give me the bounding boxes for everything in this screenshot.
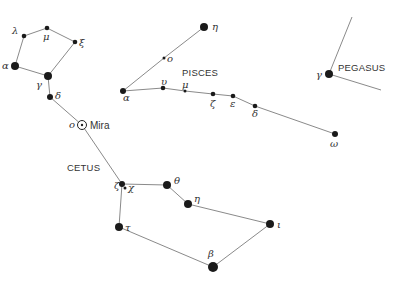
star-label-cet-delta: δ xyxy=(55,90,61,101)
star-label-psc-upsilon: υ xyxy=(161,76,167,87)
star-cet-iota xyxy=(266,220,274,228)
constellation-line xyxy=(188,204,270,224)
star-peg-gamma xyxy=(325,70,333,78)
star-cet-gamma xyxy=(44,72,52,80)
star-label-cet-alpha: α xyxy=(2,60,9,71)
pegasus-lines xyxy=(329,17,381,90)
constellation-line xyxy=(213,224,270,267)
star-chart: λμξαγδοζχθητβιηοαυμζεδωγ PISCES PEGASUS … xyxy=(0,0,402,287)
constellation-line xyxy=(255,106,335,134)
constellation-line xyxy=(119,184,122,227)
star-label-cet-omicron: ο xyxy=(69,119,75,130)
star-label-psc-omicron: ο xyxy=(167,53,173,64)
constellation-line xyxy=(123,88,163,91)
star-psc-eta xyxy=(200,23,208,31)
constellation-line xyxy=(233,96,255,106)
star-label-psc-mu: μ xyxy=(182,79,189,90)
star-label-cet-beta: β xyxy=(207,248,214,259)
star-cet-mu xyxy=(45,26,50,31)
mira-label: Mira xyxy=(90,120,110,131)
star-label-cet-gamma: γ xyxy=(36,79,42,90)
constellation-line xyxy=(50,97,82,125)
constellation-label-cetus: CETUS xyxy=(67,162,100,173)
star-cet-zeta xyxy=(119,181,125,187)
star-cet-delta xyxy=(47,94,53,100)
star-cet-chi xyxy=(124,187,127,190)
star-label-cet-lambda: λ xyxy=(11,25,18,36)
star-psc-omega xyxy=(332,131,338,137)
star-cet-xi xyxy=(73,40,78,45)
constellation-label-pegasus: PEGASUS xyxy=(338,62,385,73)
star-label-peg-gamma: γ xyxy=(316,69,322,80)
constellation-lines xyxy=(15,27,335,267)
star-labels: λμξαγδοζχθητβιηοαυμζεδωγ xyxy=(2,21,338,259)
pegasus-line-east xyxy=(329,74,381,90)
star-cet-alpha xyxy=(11,62,19,70)
constellation-line xyxy=(48,42,75,76)
star-cet-theta xyxy=(163,181,171,189)
star-label-psc-delta: δ xyxy=(252,108,258,119)
constellation-line xyxy=(119,227,213,267)
constellation-line xyxy=(185,91,213,94)
star-label-psc-eta: η xyxy=(212,21,218,32)
star-cet-tau xyxy=(115,223,123,231)
constellation-line xyxy=(15,66,48,76)
star-label-cet-mu: μ xyxy=(43,31,50,42)
constellation-line xyxy=(123,58,164,91)
constellation-line xyxy=(47,28,75,42)
star-label-psc-epsilon: ε xyxy=(230,98,235,109)
constellation-line xyxy=(82,125,122,184)
star-label-cet-zeta: ζ xyxy=(114,180,120,191)
star-psc-zeta xyxy=(211,92,216,97)
star-label-cet-theta: θ xyxy=(174,175,180,186)
star-cet-beta xyxy=(208,262,218,272)
star-cet-lambda xyxy=(22,34,27,39)
constellation-label-pisces: PISCES xyxy=(182,67,218,78)
star-label-cet-eta: η xyxy=(194,193,200,204)
star-label-psc-zeta: ζ xyxy=(210,98,216,109)
constellation-line xyxy=(167,185,188,204)
star-label-psc-omega: ω xyxy=(330,138,338,149)
constellation-line xyxy=(15,36,24,66)
star-label-cet-xi: ξ xyxy=(79,37,85,48)
star-label-psc-alpha: α xyxy=(123,92,130,103)
star-psc-omicron xyxy=(163,57,166,60)
star-label-cet-tau: τ xyxy=(125,222,131,233)
constellation-line xyxy=(213,94,233,96)
variable-star-center xyxy=(81,124,83,126)
star-cet-eta xyxy=(184,200,192,208)
star-label-cet-chi: χ xyxy=(127,182,135,193)
star-label-cet-iota: ι xyxy=(277,219,281,230)
